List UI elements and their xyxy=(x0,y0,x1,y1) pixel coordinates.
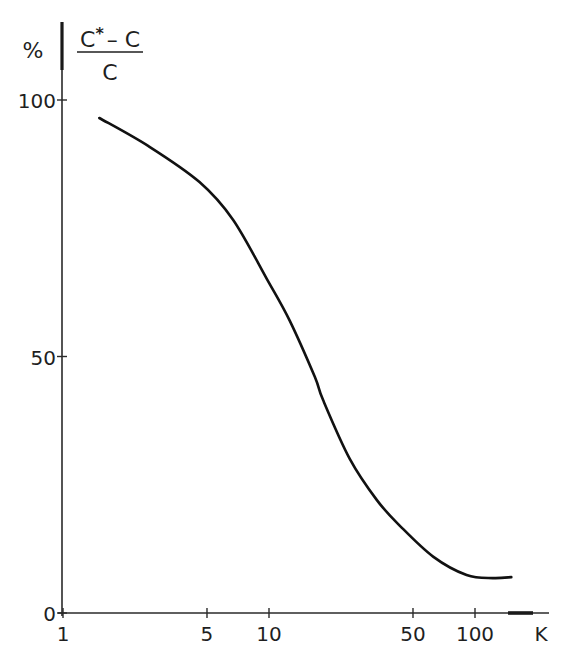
y-tick-label: 50 xyxy=(31,346,56,370)
fraction-denominator: C xyxy=(102,60,117,85)
y-ticks: 050100 xyxy=(18,89,67,626)
x-tick-label: 100 xyxy=(456,622,494,646)
x-tick-label: 5 xyxy=(201,622,214,646)
x-tick-label: 10 xyxy=(256,622,281,646)
fraction-numerator: C*– C xyxy=(80,24,140,52)
y-tick-label: 0 xyxy=(43,602,56,626)
x-tick-label: 1 xyxy=(57,622,70,646)
x-axis-label: K xyxy=(534,622,548,646)
chart: 050100 151050100 % C*– C C K xyxy=(0,0,561,669)
x-tick-label: 50 xyxy=(400,622,425,646)
y-fraction-label: C*– C C xyxy=(77,24,143,85)
data-curve xyxy=(99,118,511,578)
y-unit-label: % xyxy=(23,38,44,63)
y-tick-label: 100 xyxy=(18,89,56,113)
